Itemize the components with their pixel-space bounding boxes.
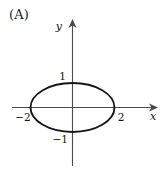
x-tick-label-left: −2 — [15, 111, 30, 123]
coordinate-plot: −2 2 1 −1 y x — [0, 0, 165, 172]
x-tick-label-right: 2 — [118, 111, 125, 123]
figure-panel: (A) −2 2 1 −1 y x — [0, 0, 165, 172]
y-tick-label-top: 1 — [59, 70, 66, 82]
y-tick-label-bottom: −1 — [53, 133, 68, 145]
x-axis-label: x — [150, 110, 157, 123]
y-axis-label: y — [55, 20, 63, 33]
